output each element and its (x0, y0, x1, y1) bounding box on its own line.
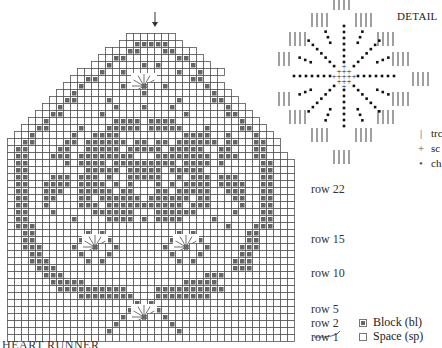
block-mark (149, 161, 154, 166)
block-mark (233, 175, 238, 180)
space-cell (36, 230, 43, 237)
space-cell (218, 300, 225, 307)
legend-trc-label: trc (431, 127, 442, 139)
space-cell (176, 62, 183, 69)
space-cell (190, 111, 197, 118)
space-cell (232, 160, 239, 167)
space-cell (183, 97, 190, 104)
space-cell (113, 251, 120, 258)
space-cell (246, 160, 253, 167)
block-mark (37, 126, 42, 131)
block-mark (16, 217, 21, 222)
block-mark (205, 287, 210, 292)
block-mark (128, 175, 133, 180)
space-cell (71, 104, 78, 111)
space-cell (253, 328, 260, 335)
space-cell (141, 34, 148, 41)
chain-stitch (329, 61, 332, 64)
space-cell (43, 153, 50, 160)
space-cell (148, 83, 155, 90)
space-cell (57, 216, 64, 223)
space-cell (274, 181, 281, 188)
space-cell (85, 314, 92, 321)
space-cell (260, 286, 267, 293)
space-cell (281, 314, 288, 321)
space-cell (232, 307, 239, 314)
block-mark (233, 259, 238, 264)
block-mark (261, 210, 266, 215)
block-mark (163, 140, 168, 145)
block-mark (170, 161, 175, 166)
space-cell (141, 125, 148, 132)
space-cell (211, 132, 218, 139)
space-cell (267, 279, 274, 286)
space-cell (106, 307, 113, 314)
block-mark (156, 287, 161, 292)
single-crochet-stitch: + (351, 71, 356, 81)
start-arrow-icon (151, 12, 159, 32)
space-cell (155, 97, 162, 104)
block-mark (79, 189, 84, 194)
space-cell (78, 314, 85, 321)
space-cell (141, 188, 148, 195)
block-mark (93, 161, 98, 166)
space-cell (85, 69, 92, 76)
block-mark (107, 196, 112, 201)
space-cell (197, 244, 204, 251)
space-cell (36, 328, 43, 335)
block-mark (191, 154, 196, 159)
space-cell (134, 230, 141, 237)
space-cell (225, 293, 232, 300)
block-mark (135, 42, 140, 47)
block-mark (177, 259, 182, 264)
block-mark (65, 161, 70, 166)
space-cell (64, 230, 71, 237)
space-cell (71, 300, 78, 307)
space-cell (99, 90, 106, 97)
space-cell (78, 104, 85, 111)
chain-stitch (356, 41, 359, 44)
space-cell (36, 132, 43, 139)
block-mark (170, 147, 175, 152)
space-cell (8, 174, 15, 181)
space-cell (113, 307, 120, 314)
space-cell (183, 83, 190, 90)
block-mark (149, 203, 154, 208)
space-cell (127, 258, 134, 265)
block-mark (205, 126, 210, 131)
block-mark (149, 42, 154, 47)
space-cell (134, 244, 141, 251)
block-mark (219, 182, 224, 187)
space-cell (183, 307, 190, 314)
space-cell (78, 97, 85, 104)
space-cell (29, 314, 36, 321)
block-mark (191, 210, 196, 215)
space-cell (148, 272, 155, 279)
block-mark (128, 126, 133, 131)
space-cell (225, 97, 232, 104)
space-cell (211, 265, 218, 272)
space-cell (162, 251, 169, 258)
space-cell (120, 97, 127, 104)
block-mark (261, 154, 266, 159)
space-cell (162, 223, 169, 230)
block-mark (121, 126, 126, 131)
space-cell (176, 118, 183, 125)
space-cell (71, 293, 78, 300)
space-cell (134, 279, 141, 286)
block-mark (191, 182, 196, 187)
chain-stitch (343, 95, 346, 98)
space-cell (8, 328, 15, 335)
space-cell (99, 55, 106, 62)
block-mark (170, 203, 175, 208)
block-mark (121, 154, 126, 159)
space-cell (71, 209, 78, 216)
space-cell (176, 307, 183, 314)
space-cell (197, 111, 204, 118)
space-cell (141, 230, 148, 237)
space-cell (239, 321, 246, 328)
chain-stitch (374, 106, 377, 109)
block-mark (205, 245, 210, 250)
space-cell (127, 111, 134, 118)
space-cell (169, 223, 176, 230)
